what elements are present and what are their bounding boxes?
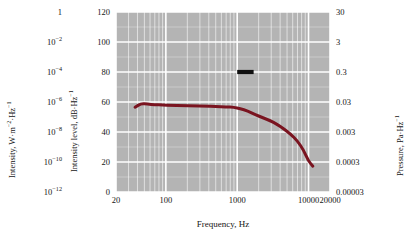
intensity-axis-title-mid: ·Hz bbox=[7, 108, 17, 121]
intensity-axis-ticks: 110−210−410−610−810−1010−12 bbox=[10, 12, 62, 192]
intensity-tick-80: 10−4 bbox=[47, 68, 62, 77]
pressure-axis-title: Pressure, Pa·Hz−1 bbox=[396, 115, 405, 176]
db-tick-20: 20 bbox=[102, 158, 111, 167]
db-tick-60: 60 bbox=[102, 98, 111, 107]
db-tick-40: 40 bbox=[102, 128, 111, 137]
db-axis-title: Intensity level, dB·Hz−1 bbox=[70, 90, 79, 172]
pressure-tick-60: 0.03 bbox=[336, 98, 351, 107]
intensity-tick-0: 10−12 bbox=[44, 188, 62, 197]
pressure-axis-title-text: Pressure, Pa·Hz bbox=[395, 122, 405, 176]
intensity-axis-title-text: Intensity, W·m bbox=[7, 127, 17, 178]
x-tick-100: 100 bbox=[159, 196, 172, 205]
db-tick-0: 0 bbox=[106, 188, 110, 197]
pressure-axis-ticks: 3030.30.030.0030.00030.00003 bbox=[336, 12, 394, 192]
x-tick-10000: 10000 bbox=[298, 196, 319, 205]
db-tick-100: 100 bbox=[97, 38, 110, 47]
db-axis-title-exp: −1 bbox=[67, 90, 74, 97]
intensity-axis-title: Intensity, W·m−2·Hz−1 bbox=[8, 101, 17, 178]
pressure-tick-80: 0.3 bbox=[336, 68, 347, 77]
pressure-axis-title-exp: −1 bbox=[393, 115, 400, 122]
db-axis-title-text: Intensity level, dB·Hz bbox=[69, 97, 79, 172]
plot-area bbox=[116, 12, 330, 192]
x-tick-20: 20 bbox=[112, 196, 121, 205]
pressure-tick-120: 30 bbox=[336, 8, 345, 17]
x-axis-ticks: 2010010001000020000 bbox=[0, 196, 408, 208]
pressure-tick-20: 0.0003 bbox=[336, 158, 359, 167]
pressure-tick-100: 3 bbox=[336, 38, 340, 47]
x-axis-title: Frequency, Hz bbox=[116, 220, 330, 229]
db-tick-120: 120 bbox=[97, 8, 110, 17]
intensity-tick-20: 10−10 bbox=[44, 158, 62, 167]
intensity-tick-60: 10−6 bbox=[47, 98, 62, 107]
db-tick-80: 80 bbox=[102, 68, 111, 77]
reference-bar-marker bbox=[116, 12, 330, 192]
intensity-tick-100: 10−2 bbox=[47, 38, 62, 47]
intensity-tick-40: 10−8 bbox=[47, 128, 62, 137]
figure-root: 110−210−410−610−810−1010−12 020406080100… bbox=[0, 0, 408, 240]
x-tick-1000: 1000 bbox=[229, 196, 246, 205]
intensity-axis-title-exp2: −1 bbox=[5, 101, 12, 108]
db-axis-ticks: 020406080100120 bbox=[76, 12, 110, 192]
intensity-axis-title-exp1: −2 bbox=[5, 121, 12, 128]
pressure-tick-40: 0.003 bbox=[336, 128, 355, 137]
intensity-tick-120: 1 bbox=[58, 8, 62, 17]
x-tick-20000: 20000 bbox=[319, 196, 340, 205]
